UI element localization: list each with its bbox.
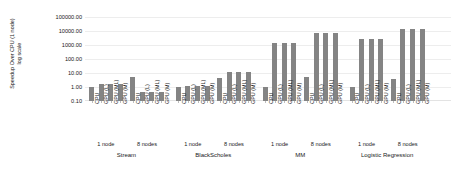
x-axis-tick-label: GPU (M) — [383, 83, 389, 104]
benchmark-label: Logistic Regression — [361, 152, 413, 158]
node-count-label: 1 node — [358, 141, 375, 147]
x-axis-tick-label: GPU (M) — [122, 83, 128, 104]
x-axis-tick-mark — [316, 101, 317, 103]
x-axis-tick-label: GPU (M) — [250, 83, 256, 104]
x-axis-tick-label: GPU (ML) — [154, 80, 160, 104]
node-count-label: 8 nodes — [398, 141, 418, 147]
benchmark-label: MM — [295, 152, 305, 158]
x-axis-tick-mark — [284, 101, 285, 103]
x-axis-tick-mark — [178, 101, 179, 103]
x-axis-tick-label: GPU (L) — [364, 84, 370, 104]
x-axis-tick-label: GPU (L) — [277, 84, 283, 104]
x-axis-tick-label: GPU (L) — [318, 84, 324, 104]
gridline — [85, 45, 451, 46]
benchmark-group-labels: StreamBlackScholesMMLogistic Regression — [85, 152, 451, 166]
x-axis-tick-mark — [265, 101, 266, 103]
x-axis-tick-label: GPU (M) — [337, 83, 343, 104]
x-axis-tick-label: GPU (L) — [190, 84, 196, 104]
x-axis-tick-mark — [133, 101, 134, 103]
y-axis-title-line1: Speedup Over CPU (1 node) — [9, 0, 16, 114]
x-axis-tick-mark — [198, 101, 199, 103]
node-count-label: 8 nodes — [224, 141, 244, 147]
x-axis-tick-label: CPU — [396, 93, 402, 104]
x-axis-tick-mark — [188, 101, 189, 103]
y-axis-tick-label: 100000.00 — [30, 14, 82, 20]
y-axis-tick-label: 10000.00 — [30, 28, 82, 34]
x-axis-tick-mark — [92, 101, 93, 103]
y-axis-tick-label: 0.10 — [30, 98, 82, 104]
x-axis-tick-mark — [207, 101, 208, 103]
x-axis-tick-label: GPU (M) — [424, 83, 430, 104]
y-axis-title-line2: log scale — [16, 0, 23, 114]
x-axis-tick-label: CPU — [268, 93, 274, 104]
y-axis-tick-label: 10.00 — [30, 70, 82, 76]
x-axis-tick-label: GPU (M) — [164, 83, 170, 104]
x-axis-tick-mark — [229, 101, 230, 103]
y-axis-tick-label: 1.00 — [30, 84, 82, 90]
x-axis-tick-label: CPU — [181, 93, 187, 104]
x-axis-tick-label: CPU — [222, 93, 228, 104]
x-axis-tick-mark — [326, 101, 327, 103]
x-axis-tick-label: GPU (ML) — [113, 80, 119, 104]
x-axis-tick-mark — [335, 101, 336, 103]
gridline — [85, 31, 451, 32]
x-axis-tick-mark — [275, 101, 276, 103]
x-axis-tick-mark — [111, 101, 112, 103]
x-axis-tick-label: GPU (ML) — [241, 80, 247, 104]
y-axis-tick-label: 100.00 — [30, 56, 82, 62]
x-axis-tick-mark — [371, 101, 372, 103]
x-axis-tick-mark — [120, 101, 121, 103]
y-axis-tick-label: 1000.00 — [30, 42, 82, 48]
x-axis-tick-label: GPU (M) — [296, 83, 302, 104]
x-axis-tick-label: GPU (L) — [231, 84, 237, 104]
x-axis-tick-mark — [307, 101, 308, 103]
x-axis-tick-label: CPU — [309, 93, 315, 104]
x-axis-tick-label: CPU — [354, 93, 360, 104]
x-axis-tick-label: GPU (ML) — [200, 80, 206, 104]
node-count-label: 1 node — [97, 141, 114, 147]
x-axis-tick-mark — [403, 101, 404, 103]
x-axis-tick-label: GPU (L) — [144, 84, 150, 104]
x-axis-tick-mark — [220, 101, 221, 103]
gridline — [85, 17, 451, 18]
plot-area — [85, 17, 451, 101]
x-axis-tick-label: GPU (L) — [405, 84, 411, 104]
x-axis-tick-mark — [239, 101, 240, 103]
x-axis-tick-label: GPU (M) — [209, 83, 215, 104]
x-axis-tick-mark — [422, 101, 423, 103]
gridline — [85, 87, 451, 88]
node-count-label: 1 node — [184, 141, 201, 147]
y-axis-title: Speedup Over CPU (1 node) log scale — [9, 0, 22, 114]
x-axis-tick-label: CPU — [94, 93, 100, 104]
x-axis-tick-mark — [393, 101, 394, 103]
x-axis-tick-mark — [101, 101, 102, 103]
x-axis-tick-label: GPU (ML) — [287, 80, 293, 104]
node-count-label: 8 nodes — [137, 141, 157, 147]
x-axis-tick-mark — [294, 101, 295, 103]
x-axis-tick-mark — [161, 101, 162, 103]
x-axis-tick-mark — [362, 101, 363, 103]
x-axis-tick-mark — [381, 101, 382, 103]
gridline — [85, 73, 451, 74]
x-axis-tick-label: GPU (ML) — [415, 80, 421, 104]
benchmark-label: BlackScholes — [195, 152, 231, 158]
x-axis-tick-label: CPU — [135, 93, 141, 104]
x-axis-tick-label: GPU (ML) — [374, 80, 380, 104]
x-axis-tick-label: GPU (L) — [103, 84, 109, 104]
speedup-bar-chart: Speedup Over CPU (1 node) log scale 1000… — [0, 0, 454, 174]
x-axis-tick-mark — [413, 101, 414, 103]
y-axis-tick-labels: 100000.0010000.001000.00100.0010.001.000… — [30, 0, 82, 174]
x-axis-tick-labels: CPUGPU (L)GPU (ML)GPU (M)CPUGPU (L)GPU (… — [85, 101, 451, 141]
node-count-label: 1 node — [271, 141, 288, 147]
x-axis-tick-mark — [152, 101, 153, 103]
gridline — [85, 59, 451, 60]
benchmark-label: Stream — [117, 152, 136, 158]
x-axis-tick-label: GPU (ML) — [328, 80, 334, 104]
node-count-label: 8 nodes — [311, 141, 331, 147]
